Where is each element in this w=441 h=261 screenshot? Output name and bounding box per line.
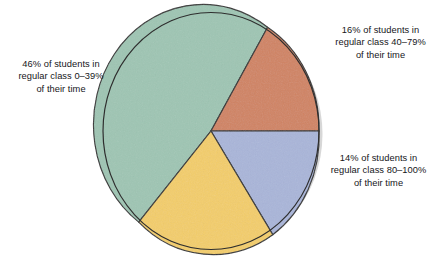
pie-label-orange: 16% of students in regular class 40–79% … <box>322 24 439 61</box>
pie-label-blue-line1: 14% of students in <box>318 152 439 164</box>
pie-label-blue-line2: regular class 80–100% <box>318 164 439 176</box>
pie-label-orange-line1: 16% of students in <box>322 24 439 36</box>
pie-label-orange-line3: of their time <box>322 49 439 61</box>
pie-label-green-line1: 46% of students in <box>2 58 120 70</box>
pie-chart-figure: 46% of students in regular class 0–39% o… <box>0 0 441 261</box>
pie-label-green-line2: regular class 0–39% <box>2 70 120 82</box>
pie-label-orange-line2: regular class 40–79% <box>322 36 439 48</box>
pie-label-green-line3: of their time <box>2 83 120 95</box>
pie-label-green: 46% of students in regular class 0–39% o… <box>2 58 120 95</box>
pie-label-blue-line3: of their time <box>318 177 439 189</box>
pie-label-blue: 14% of students in regular class 80–100%… <box>318 152 439 189</box>
